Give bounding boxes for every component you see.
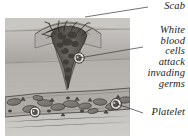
label-platelet: Platelet <box>152 107 185 118</box>
label-scab: Scab <box>164 1 185 12</box>
illustration-svg <box>5 18 130 136</box>
wound-illustration <box>5 18 130 136</box>
figure-canvas: Scab White blood cells attack invading g… <box>0 0 188 136</box>
leader-line-scab <box>85 7 148 17</box>
label-white-blood-cells: White blood cells attack invading germs <box>147 25 185 89</box>
